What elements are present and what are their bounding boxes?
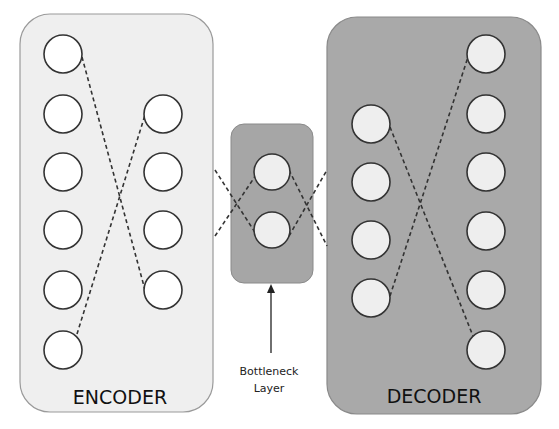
neuron-node: [467, 95, 505, 133]
neuron-node: [44, 271, 82, 309]
neuron-node: [44, 95, 82, 133]
neuron-node: [352, 163, 390, 201]
neuron-node: [352, 221, 390, 259]
neuron-node: [44, 153, 82, 191]
neuron-node: [467, 271, 505, 309]
bottleneck-label-line1: Bottleneck: [240, 365, 300, 378]
bottleneck-label-line2: Layer: [254, 382, 285, 395]
neuron-node: [467, 153, 505, 191]
neuron-node: [144, 271, 182, 309]
neuron-node: [254, 212, 290, 248]
neuron-node: [467, 331, 505, 369]
neuron-node: [254, 154, 290, 190]
encoder-label: ENCODER: [73, 386, 167, 408]
bottleneck-arrow: [267, 284, 275, 353]
neuron-node: [467, 35, 505, 73]
neuron-node: [44, 211, 82, 249]
bottleneck-panel: [231, 124, 313, 283]
decoder-panel: [327, 17, 541, 414]
neuron-node: [352, 105, 390, 143]
autoencoder-diagram: ENCODER DECODER Bottleneck Layer: [0, 0, 559, 429]
neuron-node: [467, 212, 505, 250]
decoder-label: DECODER: [387, 385, 482, 407]
neuron-node: [44, 35, 82, 73]
neuron-node: [144, 211, 182, 249]
neuron-node: [352, 279, 390, 317]
neuron-node: [44, 331, 82, 369]
neuron-node: [144, 153, 182, 191]
neuron-node: [144, 95, 182, 133]
arrowhead-icon: [267, 284, 275, 293]
